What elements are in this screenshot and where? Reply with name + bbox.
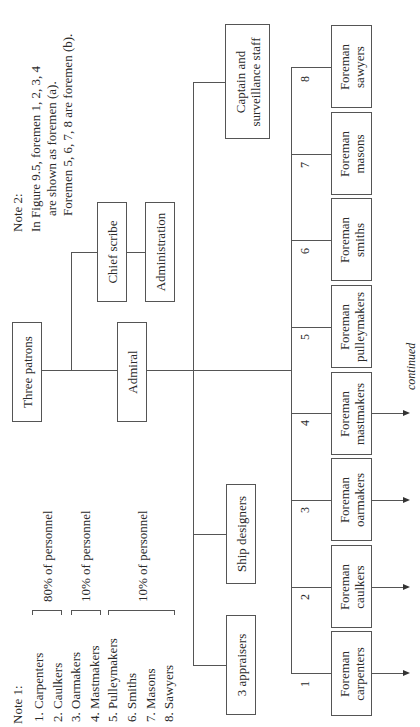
- foreman-trade: pulleymakers: [352, 291, 367, 361]
- three-patrons-box: Three patrons: [12, 322, 42, 422]
- foreman-title: Foreman: [337, 216, 352, 262]
- connector-to-ship-designers: [193, 534, 226, 535]
- captain-label-line1: Captain and: [233, 37, 248, 126]
- arrow-line-4: [372, 413, 404, 414]
- foreman-number-6: 6: [298, 248, 313, 254]
- foreman-4-stub: [291, 413, 331, 414]
- foreman-number-8: 8: [298, 76, 313, 82]
- captain-label: Captain and surveillance staff: [233, 37, 263, 126]
- foreman-caulkers-box: Foreman caulkers: [331, 545, 372, 628]
- captain-label-line2: surveillance staff: [248, 37, 263, 126]
- connector-scribe-vertical: [71, 252, 72, 370]
- foreman-trade: smiths: [352, 216, 367, 262]
- trade-item: 1. Carpenters: [30, 638, 49, 722]
- bracket-10b: [108, 610, 175, 611]
- foreman-oarmakers-label: Foreman oarmakers: [337, 472, 367, 526]
- foreman-trade: sawyers: [352, 43, 367, 89]
- bracket-10a-tick: [100, 610, 101, 615]
- foreman-8-stub: [291, 67, 331, 68]
- arrow-right-icon: [403, 410, 410, 416]
- bracket-10b-tick: [108, 610, 109, 615]
- administration-box: Administration: [145, 202, 175, 302]
- arrow-right-icon: [403, 670, 410, 676]
- foreman-trade: carpenters: [352, 647, 367, 700]
- foreman-carpenters-box: Foreman carpenters: [331, 631, 372, 716]
- foreman-pulleymakers-box: Foreman pulleymakers: [331, 285, 372, 368]
- connector-to-appraisers: [193, 665, 226, 666]
- arrow-right-icon: [403, 497, 410, 503]
- foreman-1-stub: [291, 673, 331, 674]
- admiral-label: Admiral: [125, 350, 140, 393]
- foreman-pulleymakers-label: Foreman pulleymakers: [337, 291, 367, 361]
- group-label-10b: 10% of personnel: [135, 510, 151, 602]
- note-1-title: Note 1:: [10, 685, 28, 724]
- arrow-line-2: [372, 587, 404, 588]
- foreman-title: Foreman: [337, 647, 352, 700]
- foreman-title: Foreman: [337, 43, 352, 89]
- captain-box: Captain and surveillance staff: [225, 24, 270, 139]
- administration-label: Administration: [153, 213, 168, 292]
- foreman-smiths-box: Foreman smiths: [331, 198, 372, 281]
- foreman-number-5: 5: [298, 334, 313, 340]
- group-label-10a: 10% of personnel: [78, 510, 94, 602]
- continued-label: continued: [404, 343, 419, 390]
- arrow-line-3: [372, 500, 404, 501]
- admiral-box: Admiral: [117, 322, 147, 422]
- foreman-number-2: 2: [298, 594, 313, 600]
- connector-admiral-trunk: [147, 370, 291, 371]
- foremen-vertical: [291, 67, 292, 674]
- bracket-10a-tick: [71, 610, 72, 615]
- foreman-trade: caulkers: [352, 563, 367, 609]
- arrow-right-icon: [403, 584, 410, 590]
- trade-item: 7. Masons: [142, 638, 161, 722]
- foreman-mastmakers-label: Foreman mastmakers: [337, 382, 367, 444]
- trade-item: 3. Oarmakers: [67, 638, 86, 722]
- foreman-sawyers-label: Foreman sawyers: [337, 43, 367, 89]
- bracket-10b-tick: [174, 610, 175, 615]
- connector-patrons-admiral: [42, 370, 117, 371]
- connector-to-captain: [193, 82, 225, 83]
- foreman-carpenters-label: Foreman carpenters: [337, 647, 367, 700]
- bracket-10a: [71, 610, 101, 611]
- foreman-trade: masons: [352, 130, 367, 176]
- trade-item: 5. Pulleymakers: [104, 638, 123, 722]
- connector-to-scribe: [71, 252, 97, 253]
- note-2-line: are shown as foremen (a).: [44, 34, 60, 216]
- foreman-title: Foreman: [337, 130, 352, 176]
- bracket-80-tick: [32, 610, 33, 615]
- trade-item: 8. Sawyers: [160, 638, 179, 722]
- bracket-80-tick: [61, 610, 62, 615]
- foreman-title: Foreman: [337, 291, 352, 361]
- org-chart: Note 2: In Figure 9.5, foremen 1, 2, 3, …: [0, 0, 420, 727]
- foreman-3-stub: [291, 500, 331, 501]
- foreman-trade: oarmakers: [352, 472, 367, 526]
- appraisers-label: 3 appraisers: [234, 634, 249, 696]
- trade-item: 2. Caulkers: [49, 638, 68, 722]
- chief-scribe-label: Chief scribe: [105, 220, 120, 283]
- foreman-number-1: 1: [298, 681, 313, 687]
- foreman-sawyers-box: Foreman sawyers: [331, 25, 372, 108]
- ship-designers-box: Ship designers: [226, 484, 256, 584]
- note-1: Note 1:: [10, 685, 28, 724]
- ship-designers-label: Ship designers: [234, 496, 249, 572]
- note-2: Note 2: In Figure 9.5, foremen 1, 2, 3, …: [10, 34, 76, 232]
- foreman-7-stub: [291, 154, 331, 155]
- trunk-vertical: [193, 82, 194, 665]
- connector-scribe-admin: [127, 252, 145, 253]
- foreman-6-stub: [291, 240, 331, 241]
- foreman-masons-label: Foreman masons: [337, 130, 367, 176]
- appraisers-box: 3 appraisers: [226, 615, 256, 715]
- note-2-line: In Figure 9.5, foremen 1, 2, 3, 4: [28, 34, 44, 232]
- foreman-title: Foreman: [337, 472, 352, 526]
- arrow-line-1: [372, 673, 404, 674]
- foreman-oarmakers-box: Foreman oarmakers: [331, 458, 372, 541]
- chief-scribe-box: Chief scribe: [97, 202, 127, 302]
- trade-item: 6. Smiths: [123, 638, 142, 722]
- bracket-80: [32, 610, 62, 611]
- foreman-caulkers-label: Foreman caulkers: [337, 563, 367, 609]
- foreman-title: Foreman: [337, 382, 352, 444]
- foreman-number-3: 3: [298, 507, 313, 513]
- foreman-smiths-label: Foreman smiths: [337, 216, 367, 262]
- group-label-80: 80% of personnel: [40, 510, 56, 602]
- foreman-number-4: 4: [298, 420, 313, 426]
